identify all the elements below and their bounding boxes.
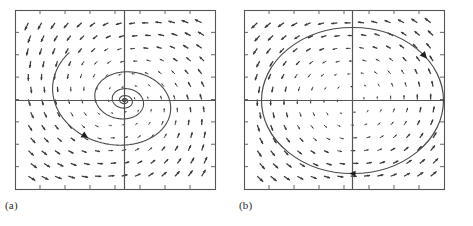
tick-marks [15, 10, 215, 189]
caption-panel-b: (b) [239, 199, 252, 211]
trajectory-spiral [53, 53, 171, 145]
figure-phase-portraits: (a) (b) [0, 0, 473, 226]
tick-marks [244, 10, 444, 189]
plot-frame [244, 10, 445, 190]
phase-portrait-b [236, 0, 473, 226]
phase-portrait-a [0, 0, 236, 226]
panel-a: (a) [0, 0, 236, 226]
panel-b: (b) [236, 0, 473, 226]
caption-panel-a: (a) [5, 199, 18, 211]
